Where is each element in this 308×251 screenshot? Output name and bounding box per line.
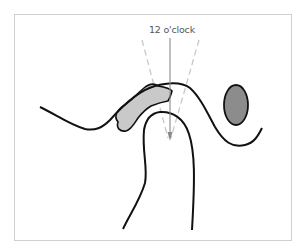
inner-arch — [123, 112, 194, 230]
twelve-oclock-label: 12 o'clock — [149, 24, 195, 35]
anatomy-diagram — [0, 0, 308, 251]
dark-gray-oval — [224, 85, 248, 125]
